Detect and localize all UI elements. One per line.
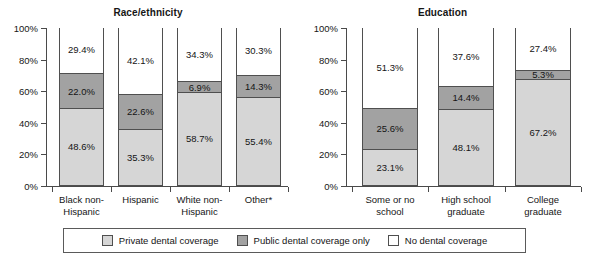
stacked-bar: 67.2%5.3%27.4% — [515, 28, 571, 186]
y-axis-line — [46, 28, 47, 187]
stacked-bar: 48.1%14.4%37.6% — [438, 28, 494, 186]
y-axis-tick-label: 60% — [2, 86, 38, 97]
y-axis-tick — [41, 91, 46, 92]
y-axis-tick-label: 100% — [302, 23, 338, 34]
bar-segment-public: 6.9% — [178, 81, 221, 92]
x-axis-category-label: High school graduate — [428, 194, 504, 217]
stacked-bar-chart-figure: Race/ethnicity100%80%60%40%20%0%48.6%22.… — [0, 0, 589, 261]
y-axis-tick — [341, 28, 346, 29]
bar-segment-value-label: 34.3% — [186, 50, 213, 60]
x-axis-line — [346, 186, 581, 187]
bar-segment-private: 67.2% — [516, 79, 570, 185]
chart-legend: Private dental coveragePublic dental cov… — [63, 228, 526, 253]
bar-segment-value-label: 42.1% — [127, 56, 154, 66]
stacked-bar: 35.3%22.6%42.1% — [118, 28, 163, 186]
y-axis-tick — [341, 154, 346, 155]
x-axis-category-label: Hispanic — [111, 194, 170, 206]
y-axis-tick-label: 60% — [302, 86, 338, 97]
y-axis-line — [346, 28, 347, 187]
y-axis-tick — [41, 186, 46, 187]
x-axis-tick — [170, 187, 171, 192]
y-axis-tick-label: 20% — [2, 149, 38, 160]
bar-segment-value-label: 29.4% — [68, 45, 95, 55]
bar-segment-public: 25.6% — [363, 108, 417, 148]
bar-segment-value-label: 14.4% — [453, 93, 480, 103]
legend-label: No dental coverage — [405, 235, 487, 246]
bar-segment-value-label: 35.3% — [127, 153, 154, 163]
y-axis-tick — [341, 91, 346, 92]
bar-segment-none: 27.4% — [516, 27, 570, 70]
legend-label: Private dental coverage — [119, 235, 219, 246]
bar-segment-public: 22.6% — [119, 94, 162, 130]
x-axis-tick — [111, 187, 112, 192]
x-axis-line — [46, 186, 288, 187]
bar-segment-none: 34.3% — [178, 27, 221, 81]
bar-segment-value-label: 27.4% — [530, 44, 557, 54]
x-axis-category-label: Some or no school — [352, 194, 428, 217]
bar-segment-value-label: 30.3% — [245, 46, 272, 56]
y-axis-tick — [41, 60, 46, 61]
bar-segment-value-label: 22.0% — [68, 87, 95, 97]
y-axis-tick-label: 80% — [2, 55, 38, 66]
y-axis-tick-label: 100% — [2, 23, 38, 34]
y-axis-tick — [341, 123, 346, 124]
x-axis-tick — [505, 187, 506, 192]
bar-segment-value-label: 5.3% — [532, 70, 554, 80]
bar-segment-none: 29.4% — [60, 27, 103, 73]
x-axis-category-label: College graduate — [505, 194, 581, 217]
y-axis-tick-label: 20% — [302, 149, 338, 160]
bar-segment-value-label: 25.6% — [377, 124, 404, 134]
bar-segment-value-label: 48.6% — [68, 142, 95, 152]
bar-segment-value-label: 67.2% — [530, 128, 557, 138]
bar-segment-public: 14.4% — [439, 86, 493, 109]
chart-panel-race-ethnicity: Race/ethnicity100%80%60%40%20%0%48.6%22.… — [0, 0, 296, 215]
chart-title: Race/ethnicity — [0, 7, 296, 18]
x-axis-category-label: Other* — [229, 194, 288, 206]
bar-segment-value-label: 55.4% — [245, 137, 272, 147]
y-axis-tick — [41, 28, 46, 29]
bar-segment-none: 30.3% — [237, 27, 280, 75]
x-axis-category-label: White non- Hispanic — [170, 194, 229, 217]
x-axis-tick — [428, 187, 429, 192]
x-axis-tick — [581, 187, 582, 192]
y-axis-tick — [341, 186, 346, 187]
y-axis-tick-label: 40% — [302, 118, 338, 129]
legend-item: No dental coverage — [388, 235, 487, 246]
bar-segment-value-label: 23.1% — [377, 163, 404, 173]
bar-segment-value-label: 37.6% — [453, 52, 480, 62]
legend-swatch-icon — [388, 235, 399, 246]
bar-segment-private: 55.4% — [237, 97, 280, 185]
legend-swatch-icon — [237, 235, 248, 246]
x-axis-category-label: Black non- Hispanic — [52, 194, 111, 217]
y-axis-tick-label: 80% — [302, 55, 338, 66]
y-axis-tick-label: 0% — [2, 181, 38, 192]
bar-segment-value-label: 48.1% — [453, 143, 480, 153]
x-axis-tick — [52, 187, 53, 192]
bar-segment-none: 51.3% — [363, 27, 417, 108]
bar-segment-none: 42.1% — [119, 27, 162, 94]
x-axis-tick — [229, 187, 230, 192]
chart-title: Education — [296, 7, 589, 18]
y-axis-tick — [41, 154, 46, 155]
y-axis-tick — [41, 123, 46, 124]
bar-segment-private: 35.3% — [119, 129, 162, 185]
bar-segment-private: 48.6% — [60, 108, 103, 185]
legend-item: Private dental coverage — [102, 235, 219, 246]
y-axis-tick-label: 0% — [302, 181, 338, 192]
x-axis-tick — [352, 187, 353, 192]
bar-segment-value-label: 51.3% — [377, 63, 404, 73]
legend-label: Public dental coverage only — [254, 235, 370, 246]
legend-swatch-icon — [102, 235, 113, 246]
bar-segment-value-label: 6.9% — [189, 83, 211, 93]
y-axis-tick-label: 40% — [2, 118, 38, 129]
legend-item: Public dental coverage only — [237, 235, 370, 246]
bar-segment-private: 23.1% — [363, 149, 417, 185]
stacked-bar: 55.4%14.3%30.3% — [236, 28, 281, 186]
stacked-bar: 58.7%6.9%34.3% — [177, 28, 222, 186]
stacked-bar: 48.6%22.0%29.4% — [59, 28, 104, 186]
bar-segment-value-label: 14.3% — [245, 82, 272, 92]
bar-segment-value-label: 58.7% — [186, 134, 213, 144]
bar-segment-public: 5.3% — [516, 70, 570, 78]
bar-segment-public: 14.3% — [237, 75, 280, 98]
bar-segment-private: 58.7% — [178, 92, 221, 185]
